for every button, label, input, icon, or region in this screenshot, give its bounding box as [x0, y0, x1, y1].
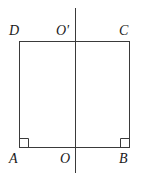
vertex-label-d: D [9, 24, 19, 38]
vertex-label-c: C [119, 24, 128, 38]
vertex-label-o: O [60, 152, 70, 166]
rectangle-abcd [20, 42, 130, 148]
vertex-label-b: B [119, 152, 128, 166]
vertex-label-o-prime: O' [56, 24, 69, 38]
right-angle-mark-a [20, 139, 29, 148]
vertex-label-a: A [9, 152, 18, 166]
right-angle-mark-b [121, 139, 130, 148]
geometry-figure: D O' C A O B [0, 0, 146, 182]
